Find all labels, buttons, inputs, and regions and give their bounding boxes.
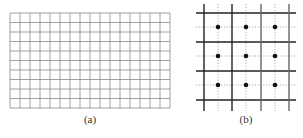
grid-dot [273, 54, 278, 59]
grid-dot [216, 54, 221, 59]
grid-dot [273, 83, 278, 88]
grid-dot [273, 25, 278, 30]
grid-dot [244, 83, 249, 88]
uniform-grid-panel-a [10, 13, 170, 108]
caption-b: (b) [240, 113, 253, 125]
figure-canvas [0, 0, 303, 138]
grid-dot [244, 25, 249, 30]
grid-dot [216, 83, 221, 88]
grid-dot [244, 54, 249, 59]
caption-a: (a) [84, 113, 96, 125]
staggered-grid-panel-b [196, 4, 296, 111]
grid-dot [216, 25, 221, 30]
